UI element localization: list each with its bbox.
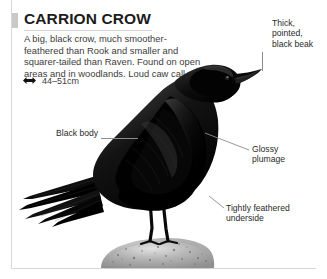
callout-glossy-line-1: Glossy xyxy=(252,144,308,154)
crow-legs xyxy=(141,200,177,244)
species-description: A big, black crow, much smoother-feather… xyxy=(24,33,204,79)
size-row: 44–51cm xyxy=(23,75,79,86)
size-range-arrow-icon xyxy=(23,75,36,86)
callout-glossy-line-2: plumage xyxy=(252,154,308,164)
field-guide-page: CARRION CROW A big, black crow, much smo… xyxy=(0,0,327,279)
page-title: CARRION CROW xyxy=(24,10,151,28)
callout-glossy-plumage: Glossy plumage xyxy=(252,144,308,165)
leader-line-underside xyxy=(209,196,224,208)
crow-tail xyxy=(19,176,104,227)
callout-tightly-feathered-underside: Tightly feathered underside xyxy=(226,203,322,224)
callout-thick-pointed-black-beak: Thick, pointed, black beak xyxy=(272,18,324,49)
callout-black-body: Black body xyxy=(56,128,116,138)
page-bottom-rule xyxy=(11,268,316,269)
crow-throat xyxy=(209,95,233,103)
leader-line-glossy xyxy=(205,133,249,150)
callout-beak-line-2: pointed, xyxy=(272,28,324,38)
leader-line-beak xyxy=(262,52,263,71)
callout-underside-line-2: underside xyxy=(226,213,322,223)
title-underline xyxy=(24,30,152,31)
title-accent-tab xyxy=(12,13,18,28)
size-value: 44–51cm xyxy=(42,76,79,86)
callout-underside-line-1: Tightly feathered xyxy=(226,203,322,213)
page-left-rule xyxy=(11,0,12,269)
callout-beak-line-1: Thick, xyxy=(272,18,324,28)
callout-beak-line-3: black beak xyxy=(272,39,324,49)
crow-beak xyxy=(232,69,262,84)
crow-body xyxy=(93,78,218,211)
rock-perch xyxy=(101,238,214,268)
callout-leader-lines xyxy=(205,133,249,208)
